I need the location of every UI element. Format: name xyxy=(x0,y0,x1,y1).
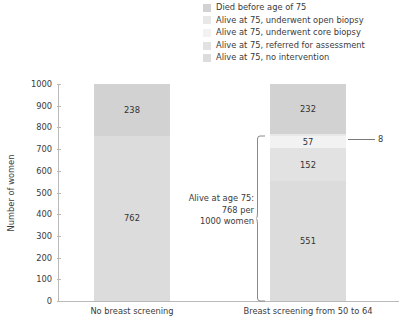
y-tick-900 xyxy=(57,106,61,107)
annotation-line-1: Alive at age 75: xyxy=(168,193,254,205)
bar-segment-open-biopsy-right[interactable] xyxy=(270,134,346,136)
y-tick-200 xyxy=(57,258,61,259)
bar-breast-screening-50-64[interactable]: 551 152 57 232 xyxy=(270,84,346,301)
y-tick-label-900: 900 xyxy=(36,101,52,111)
legend-label-open-biopsy: Alive at 75, underwent open biopsy xyxy=(216,15,364,27)
legend-swatch-referred-assessment xyxy=(203,42,211,50)
y-tick-label-0: 0 xyxy=(47,296,52,306)
y-tick-label-400: 400 xyxy=(36,209,52,219)
legend-item-core-biopsy: Alive at 75, underwent core biopsy xyxy=(203,27,365,39)
bar-segment-died-right[interactable]: 232 xyxy=(270,84,346,134)
y-tick-label-700: 700 xyxy=(36,144,52,154)
bar-segment-alive-no-intervention-left[interactable]: 762 xyxy=(94,136,170,301)
y-tick-label-500: 500 xyxy=(36,188,52,198)
open-biopsy-callout-line xyxy=(348,139,375,140)
y-tick-0 xyxy=(57,301,61,302)
x-label-no-breast-screening: No breast screening xyxy=(90,306,173,316)
legend-swatch-no-intervention xyxy=(203,54,211,62)
bar-value-551: 551 xyxy=(300,237,316,245)
legend-swatch-died-before-75 xyxy=(203,4,211,12)
bar-value-152: 152 xyxy=(300,161,316,169)
bar-segment-referred-assessment-right[interactable]: 152 xyxy=(270,148,346,181)
legend-item-open-biopsy: Alive at 75, underwent open biopsy xyxy=(203,15,365,27)
legend-item-referred-assessment: Alive at 75, referred for assessment xyxy=(203,40,365,52)
legend-item-died-before-75: Died before age of 75 xyxy=(203,2,365,14)
legend-label-no-intervention: Alive at 75, no intervention xyxy=(216,52,329,64)
y-tick-label-800: 800 xyxy=(36,122,52,132)
y-tick-600 xyxy=(57,171,61,172)
y-tick-label-1000: 1000 xyxy=(31,79,52,89)
y-tick-700 xyxy=(57,149,61,150)
bar-value-238: 238 xyxy=(124,106,140,114)
legend-swatch-open-biopsy xyxy=(203,16,211,24)
y-tick-label-300: 300 xyxy=(36,231,52,241)
y-tick-100 xyxy=(57,279,61,280)
bar-segment-alive-no-intervention-right[interactable]: 551 xyxy=(270,181,346,301)
annotation-line-2: 768 per xyxy=(168,205,254,217)
y-tick-300 xyxy=(57,236,61,237)
y-tick-400 xyxy=(57,214,61,215)
legend-swatch-core-biopsy xyxy=(203,29,211,37)
legend-label-died-before-75: Died before age of 75 xyxy=(216,2,306,14)
open-biopsy-callout-label: 8 xyxy=(378,134,383,144)
y-tick-800 xyxy=(57,127,61,128)
y-tick-label-200: 200 xyxy=(36,253,52,263)
y-tick-500 xyxy=(57,193,61,194)
bar-value-57: 57 xyxy=(303,138,314,146)
stacked-bar-chart: Died before age of 75 Alive at 75, under… xyxy=(0,0,405,323)
bar-segment-died-left[interactable]: 238 xyxy=(94,84,170,136)
annotation-line-3: 1000 women xyxy=(168,216,254,228)
legend-label-referred-assessment: Alive at 75, referred for assessment xyxy=(216,40,365,52)
y-tick-label-100: 100 xyxy=(36,274,52,284)
y-axis-title: Number of women xyxy=(6,155,16,232)
x-axis-line xyxy=(58,301,399,302)
y-tick-label-600: 600 xyxy=(36,166,52,176)
legend-label-core-biopsy: Alive at 75, underwent core biopsy xyxy=(216,27,361,39)
y-tick-1000 xyxy=(57,84,61,85)
bar-value-762: 762 xyxy=(124,214,140,222)
bar-segment-core-biopsy-right[interactable]: 57 xyxy=(270,136,346,148)
x-label-breast-screening: Breast screening from 50 to 64 xyxy=(243,306,372,316)
bar-no-breast-screening[interactable]: 762 238 xyxy=(94,84,170,301)
legend-item-no-intervention: Alive at 75, no intervention xyxy=(203,52,365,64)
chart-legend: Died before age of 75 Alive at 75, under… xyxy=(203,2,365,64)
bar-value-232: 232 xyxy=(300,105,316,113)
alive-at-75-annotation: Alive at age 75: 768 per 1000 women xyxy=(168,193,254,228)
